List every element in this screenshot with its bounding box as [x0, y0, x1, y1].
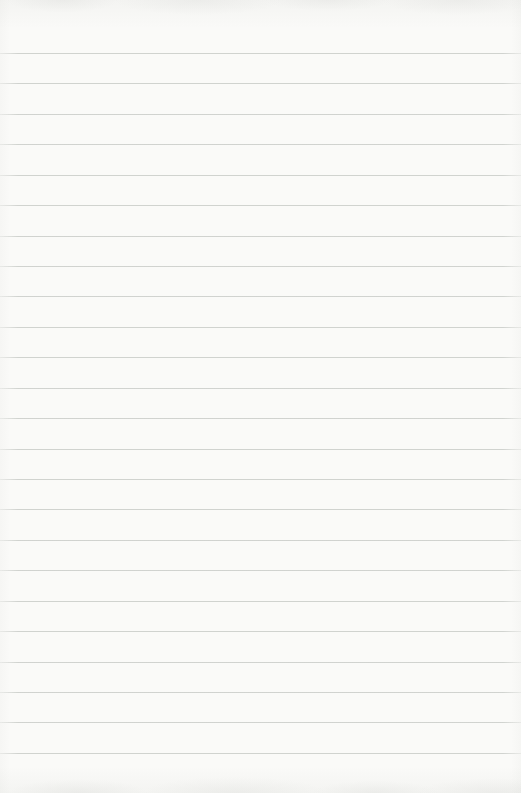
rule-line	[0, 753, 521, 754]
rule-line	[0, 144, 521, 145]
rule-line	[0, 479, 521, 480]
rule-line	[0, 296, 521, 297]
rule-line	[0, 418, 521, 419]
rule-line	[0, 53, 521, 54]
rule-line	[0, 266, 521, 267]
rule-line	[0, 357, 521, 358]
rule-line	[0, 175, 521, 176]
rule-line	[0, 601, 521, 602]
rule-line	[0, 388, 521, 389]
ruled-paper-page	[0, 0, 521, 793]
rule-line	[0, 662, 521, 663]
rule-line	[0, 509, 521, 510]
rule-line	[0, 692, 521, 693]
rule-line	[0, 722, 521, 723]
rule-line	[0, 114, 521, 115]
rule-lines-container	[0, 0, 521, 793]
rule-line	[0, 449, 521, 450]
rule-line	[0, 327, 521, 328]
rule-line	[0, 83, 521, 84]
rule-line	[0, 570, 521, 571]
rule-line	[0, 236, 521, 237]
rule-line	[0, 631, 521, 632]
rule-line	[0, 205, 521, 206]
rule-line	[0, 540, 521, 541]
